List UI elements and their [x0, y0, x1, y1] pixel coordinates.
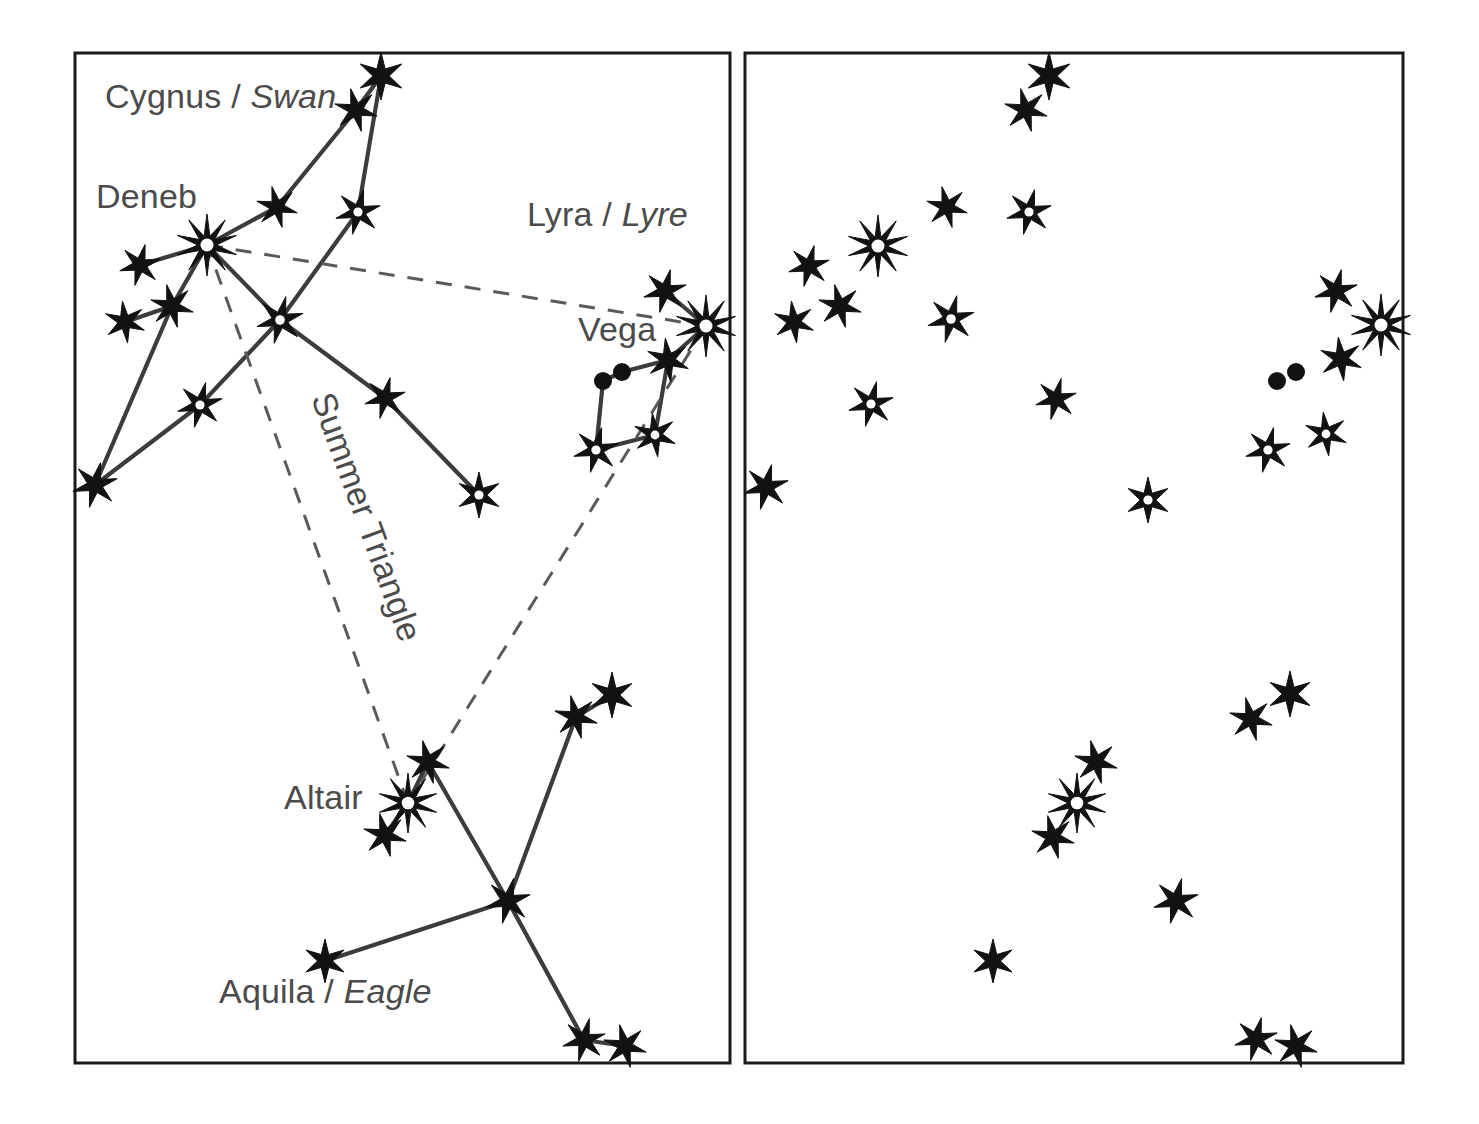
star-dot-marker: [1287, 363, 1305, 381]
star-centre-hole: [402, 797, 415, 810]
lyra-label: Lyra / Lyre: [527, 195, 688, 233]
star-centre-hole: [275, 315, 285, 325]
figure-canvas: Cygnus / SwanDenebLyra / LyreVegaSummer …: [0, 0, 1479, 1124]
star-centre-hole: [353, 207, 362, 216]
label-roman-part: Cygnus /: [105, 77, 250, 115]
star-centre-hole: [1143, 495, 1152, 504]
label-roman-part: Lyra /: [527, 195, 622, 233]
label-italic-part: Lyre: [622, 195, 688, 233]
right-star-dot: [1268, 372, 1286, 390]
star-centre-hole: [591, 445, 600, 454]
star-centre-hole: [651, 431, 660, 440]
star-dot-marker: [1268, 372, 1286, 390]
star-centre-hole: [1322, 430, 1331, 439]
star-dot-marker: [594, 372, 612, 390]
label-roman-part: Altair: [284, 778, 363, 816]
star-centre-hole: [871, 239, 884, 252]
aquila-label: Aquila / Eagle: [219, 972, 432, 1010]
cygnus-label: Cygnus / Swan: [105, 77, 336, 115]
star-centre-hole: [200, 238, 213, 251]
altair-label: Altair: [284, 778, 363, 816]
star-centre-hole: [1263, 445, 1272, 454]
label-roman-part: Aquila /: [219, 972, 344, 1010]
star-centre-hole: [946, 314, 956, 324]
star-centre-hole: [1374, 318, 1387, 331]
star-centre-hole: [699, 319, 712, 332]
vega-label: Vega: [578, 310, 656, 348]
left-star-dot: [613, 363, 631, 381]
deneb-label: Deneb: [96, 177, 197, 215]
star-centre-hole: [195, 400, 204, 409]
star-dot-marker: [613, 363, 631, 381]
label-italic-part: Swan: [250, 77, 336, 115]
constellation-figure: Cygnus / SwanDenebLyra / LyreVegaSummer …: [0, 0, 1479, 1124]
right-star-dot: [1287, 363, 1305, 381]
label-roman-part: Deneb: [96, 177, 197, 215]
star-centre-hole: [1071, 797, 1084, 810]
label-italic-part: Eagle: [344, 972, 432, 1010]
left-star-dot: [594, 372, 612, 390]
star-centre-hole: [1024, 207, 1033, 216]
label-roman-part: Vega: [578, 310, 656, 348]
star-centre-hole: [474, 490, 483, 499]
unlabelled-star-field-panel: [745, 53, 1403, 1063]
star-centre-hole: [866, 399, 875, 408]
